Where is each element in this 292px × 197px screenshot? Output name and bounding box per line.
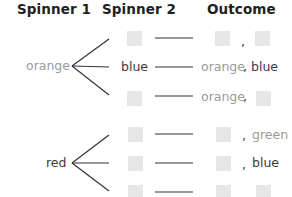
- blank-box-outcome-first[interactable]: [216, 185, 231, 197]
- blank-box-spinner2[interactable]: [127, 31, 142, 46]
- blank-box-outcome-second[interactable]: [256, 91, 271, 106]
- branch-line-orange-upper: [72, 39, 109, 66]
- branch-line-orange-lower: [72, 66, 109, 95]
- spinner1-label-red: red: [46, 155, 67, 171]
- outcome-comma: ,: [243, 59, 247, 75]
- outcome-comma: ,: [242, 128, 246, 144]
- blank-box-spinner2[interactable]: [127, 91, 142, 106]
- blank-box-spinner2[interactable]: [128, 185, 143, 197]
- outcome-comma: ,: [241, 34, 245, 50]
- blank-box-outcome-second[interactable]: [255, 31, 270, 46]
- blank-box-outcome-first[interactable]: [216, 127, 231, 142]
- branch-line-red-lower: [72, 163, 109, 191]
- outcome-first-orange: orange: [201, 89, 245, 105]
- blank-box-outcome-first[interactable]: [215, 31, 230, 46]
- blank-box-outcome-first[interactable]: [216, 156, 231, 171]
- outcome-second-green: green: [252, 127, 288, 143]
- outcome-comma: ,: [242, 157, 246, 173]
- spinner2-label-blue: blue: [121, 59, 148, 75]
- branch-line-orange-middle: [72, 66, 109, 67]
- blank-box-spinner2[interactable]: [128, 127, 143, 142]
- blank-box-spinner2[interactable]: [128, 156, 143, 171]
- blank-box-outcome-second[interactable]: [256, 185, 271, 197]
- outcome-second-blue: blue: [252, 155, 279, 171]
- outcome-comma: ,: [243, 89, 247, 105]
- branch-line-red-upper: [72, 135, 109, 163]
- tree-diagram-lines: [0, 0, 292, 197]
- spinner1-label-orange: orange: [26, 58, 70, 74]
- outcome-first-orange: orange: [201, 59, 245, 75]
- outcome-second-blue: blue: [251, 59, 278, 75]
